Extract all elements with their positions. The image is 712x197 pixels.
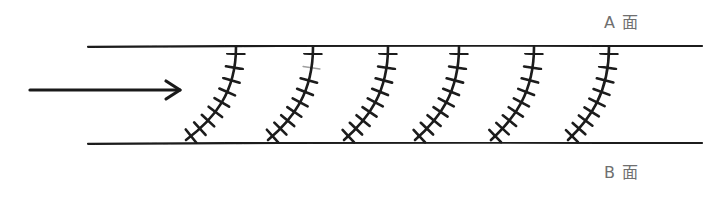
marker-curve-6-tick-7 [579, 115, 593, 125]
label-b-surface: B 面 [604, 164, 639, 182]
flow-arrow-group [30, 81, 180, 99]
marker-curve-6-tick-1 [600, 53, 617, 54]
marker-curve-4 [414, 47, 468, 142]
marker-curve-5-tick-6 [509, 107, 523, 116]
marker-curve-4-tick-2 [449, 66, 466, 69]
marker-curve-6-tick-2 [599, 67, 616, 69]
label-a-surface: A 面 [604, 14, 639, 32]
marker-curve-2-tick-6 [287, 107, 301, 117]
marker-curve-1-tick-5 [215, 98, 230, 107]
marker-curve-2 [267, 47, 321, 142]
marker-curve-3-tick-6 [362, 107, 376, 116]
marker-curve-6 [566, 47, 617, 142]
marker-curves-group [186, 47, 618, 143]
marker-curve-5-tick-2 [524, 66, 541, 69]
marker-curve-4-tick-1 [450, 53, 467, 54]
figure-canvas: A 面 B 面 [0, 0, 712, 197]
marker-curve-1-tick-6 [209, 107, 223, 117]
marker-curve-3-tick-2 [378, 66, 395, 69]
marker-curve-2-tick-5 [293, 98, 308, 106]
marker-curve-1-tick-2 [226, 66, 243, 69]
marker-curve-4-tick-6 [433, 107, 447, 116]
marker-curve-2-tick-1 [304, 53, 321, 54]
marker-curve-5-tick-1 [525, 53, 542, 54]
marker-curve-1-tick-1 [227, 53, 244, 54]
marker-curve-5 [489, 47, 542, 142]
marker-curve-3 [343, 47, 397, 142]
marker-curve-3-tick-1 [379, 53, 396, 54]
marker-curve-1 [186, 47, 245, 143]
bottom-boundary-line [88, 143, 702, 144]
marker-curve-6-tick-6 [584, 107, 598, 116]
